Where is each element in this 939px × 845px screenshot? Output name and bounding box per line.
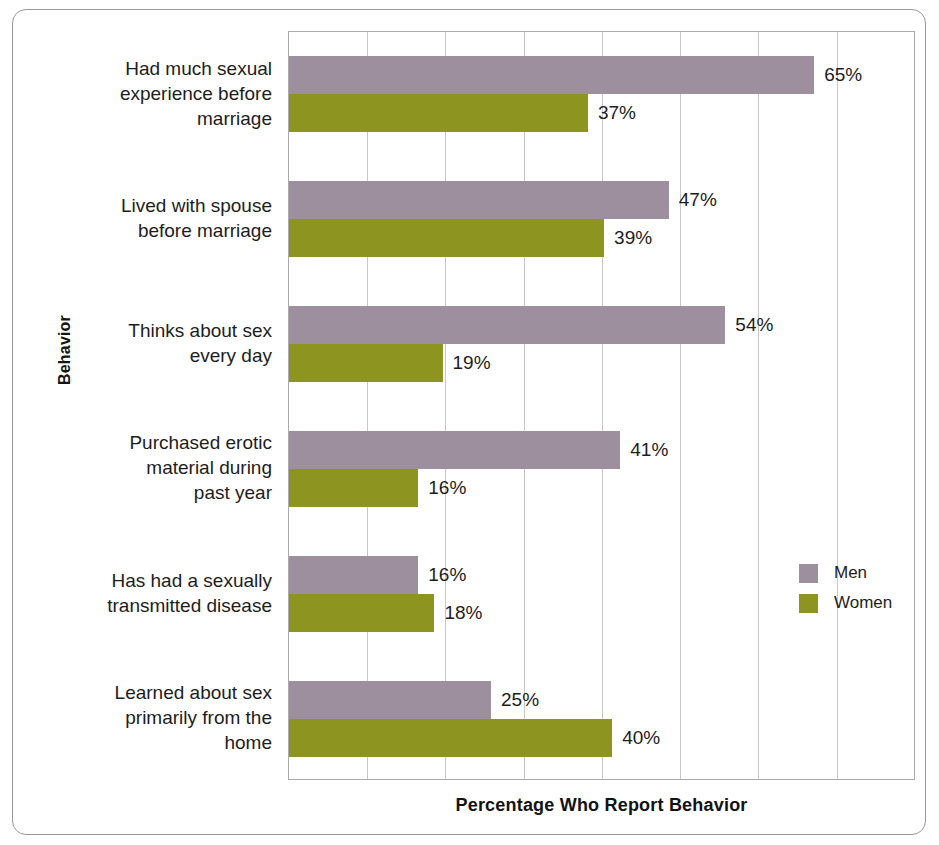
- bar-women: [289, 594, 434, 632]
- category-label-line: primarily from the: [32, 705, 272, 730]
- bar-value-label: 25%: [501, 681, 539, 719]
- bar-value-label: 41%: [630, 431, 668, 469]
- category-label-line: transmitted disease: [32, 593, 272, 618]
- bar-value-label: 39%: [614, 219, 652, 257]
- legend-swatch-icon: [799, 594, 818, 613]
- gridline: [367, 32, 368, 779]
- bar-men: [289, 56, 814, 94]
- bar-value-label: 65%: [824, 56, 862, 94]
- legend-label: Men: [834, 563, 867, 583]
- category-label: Thinks about sexevery day: [32, 318, 272, 368]
- chart-legend: MenWomen: [799, 558, 892, 618]
- bar-men: [289, 306, 725, 344]
- bar-women: [289, 344, 443, 382]
- x-axis-title: Percentage Who Report Behavior: [288, 795, 915, 816]
- category-label-line: experience before: [32, 81, 272, 106]
- category-label-line: marriage: [32, 106, 272, 131]
- category-label: Lived with spousebefore marriage: [32, 193, 272, 243]
- category-label-line: Lived with spouse: [32, 193, 272, 218]
- bar-value-label: 18%: [444, 594, 482, 632]
- gridline: [837, 32, 838, 779]
- bar-value-label: 54%: [735, 306, 773, 344]
- category-label-line: material during: [32, 455, 272, 480]
- category-label-line: home: [32, 730, 272, 755]
- bar-value-label: 40%: [622, 719, 660, 757]
- category-label-line: before marriage: [32, 218, 272, 243]
- bar-value-label: 47%: [679, 181, 717, 219]
- bar-men: [289, 556, 418, 594]
- bar-value-label: 37%: [598, 94, 636, 132]
- bar-women: [289, 469, 418, 507]
- legend-swatch-icon: [799, 564, 818, 583]
- category-label-line: Learned about sex: [32, 680, 272, 705]
- category-label-line: every day: [32, 343, 272, 368]
- bar-women: [289, 219, 604, 257]
- bar-women: [289, 719, 612, 757]
- gridline: [602, 32, 603, 779]
- gridline: [758, 32, 759, 779]
- bar-value-label: 19%: [453, 344, 491, 382]
- category-label-line: Purchased erotic: [32, 430, 272, 455]
- category-label-line: Thinks about sex: [32, 318, 272, 343]
- legend-item-women: Women: [799, 588, 892, 618]
- bar-men: [289, 431, 620, 469]
- category-label: Has had a sexuallytransmitted disease: [32, 568, 272, 618]
- legend-label: Women: [834, 593, 892, 613]
- category-label-line: past year: [32, 480, 272, 505]
- category-label-column: Had much sexualexperience beforemarriage…: [28, 31, 272, 780]
- category-label-line: Had much sexual: [32, 56, 272, 81]
- gridline: [680, 32, 681, 779]
- gridline: [524, 32, 525, 779]
- gridline: [445, 32, 446, 779]
- bar-men: [289, 681, 491, 719]
- category-label: Had much sexualexperience beforemarriage: [32, 56, 272, 131]
- category-label: Purchased eroticmaterial duringpast year: [32, 430, 272, 505]
- category-label-line: Has had a sexually: [32, 568, 272, 593]
- bar-value-label: 16%: [428, 556, 466, 594]
- bar-value-label: 16%: [428, 469, 466, 507]
- category-label: Learned about sexprimarily from thehome: [32, 680, 272, 755]
- bar-men: [289, 181, 669, 219]
- bar-women: [289, 94, 588, 132]
- plot-area: 65%37%47%39%54%19%41%16%16%18%25%40%: [288, 31, 915, 780]
- legend-item-men: Men: [799, 558, 892, 588]
- chart-figure: Behavior Had much sexualexperience befor…: [0, 0, 939, 845]
